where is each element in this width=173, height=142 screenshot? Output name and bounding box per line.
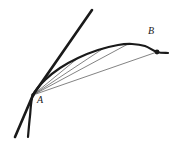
secant-line-3: [33, 44, 128, 95]
secant-line-2: [33, 48, 104, 95]
point-b-label: B: [148, 26, 154, 36]
point-a-marker: [31, 93, 35, 97]
figure-canvas: [0, 0, 173, 142]
curve-path: [28, 44, 168, 137]
geometry-figure: A B: [0, 0, 173, 142]
point-b-marker: [155, 50, 160, 55]
point-a-label: A: [37, 95, 43, 105]
